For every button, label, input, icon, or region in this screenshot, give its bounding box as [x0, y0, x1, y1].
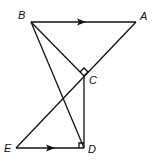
segment-BC: [31, 22, 84, 76]
point-label-E: E: [4, 143, 11, 154]
point-label-A: A: [140, 11, 147, 22]
point-label-C: C: [89, 75, 97, 86]
geometry-diagram: [0, 0, 156, 162]
point-label-B: B: [18, 10, 25, 21]
point-label-D: D: [88, 144, 96, 155]
right-angle-mark-C: [80, 68, 88, 76]
